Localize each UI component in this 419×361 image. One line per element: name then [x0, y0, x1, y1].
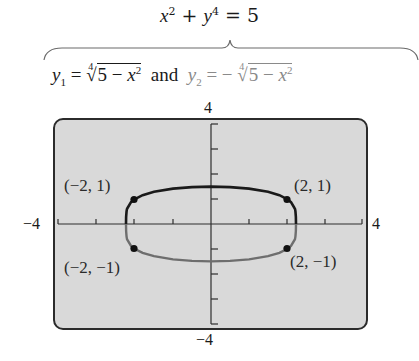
point-neg2-neg1: [130, 245, 137, 252]
graph-screen: [0, 0, 419, 361]
label-point-neg2-1: (−2, 1): [64, 176, 110, 196]
label-point-2-neg1: (2, −1): [290, 252, 336, 272]
label-point-neg2-neg1: (−2, −1): [64, 258, 120, 278]
point-neg2-1: [130, 196, 137, 203]
label-point-2-1: (2, 1): [294, 176, 331, 196]
point-2-1: [283, 196, 290, 203]
